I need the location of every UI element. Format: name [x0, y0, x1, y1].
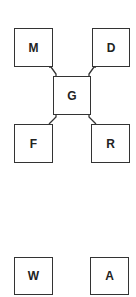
node-w-label: W [28, 269, 39, 283]
edge-g-r [89, 115, 96, 124]
node-m: M [14, 28, 53, 67]
edge-d-g [89, 67, 96, 76]
node-r: R [91, 124, 130, 163]
node-d-label: D [107, 41, 116, 55]
node-a-label: A [105, 269, 114, 283]
node-g-label: G [67, 89, 76, 103]
node-a: A [90, 257, 129, 295]
edge-m-g [49, 67, 56, 76]
node-r-label: R [106, 137, 115, 151]
node-w: W [14, 257, 53, 295]
node-m-label: M [29, 41, 39, 55]
node-f: F [14, 124, 53, 163]
node-d: D [92, 28, 130, 67]
node-f-label: F [30, 137, 37, 151]
node-g: G [53, 76, 91, 115]
edge-g-f [49, 115, 56, 124]
